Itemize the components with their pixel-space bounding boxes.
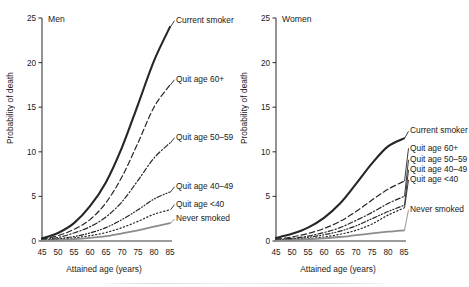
series-label: Quit age 50–59 bbox=[410, 154, 468, 164]
x-tick-label: 65 bbox=[335, 248, 345, 257]
y-tick-label: 0 bbox=[265, 237, 270, 246]
panel-title-women: Women bbox=[282, 14, 311, 24]
series-label: Quit age 60+ bbox=[176, 74, 224, 84]
series-line bbox=[42, 27, 170, 238]
y-tick-label: 5 bbox=[31, 192, 36, 201]
series-label: Current smoker bbox=[176, 15, 234, 25]
series-label-leader bbox=[171, 205, 175, 210]
y-axis-label: Probability of death bbox=[240, 72, 249, 144]
series-label: Current smoker bbox=[410, 125, 468, 135]
panel-men: Probability of death Men Attained age (y… bbox=[0, 0, 234, 287]
series-label: Quit age 60+ bbox=[410, 143, 458, 153]
series-line bbox=[42, 143, 170, 240]
y-tick-label: 15 bbox=[261, 103, 271, 112]
panel-title-men: Men bbox=[48, 14, 65, 24]
y-tick-label: 0 bbox=[31, 237, 36, 246]
series-line bbox=[276, 181, 404, 239]
series-label: Quit age <40 bbox=[176, 199, 225, 209]
x-tick-label: 80 bbox=[149, 248, 159, 257]
series-label-leader bbox=[171, 219, 175, 223]
plot-area-men: 0510152025455055606570758085Current smok… bbox=[0, 0, 234, 287]
figure-two-panel-line-chart: Probability of death Men Attained age (y… bbox=[0, 0, 469, 287]
x-axis-label: Attained age (years) bbox=[268, 264, 408, 274]
x-tick-label: 70 bbox=[351, 248, 361, 257]
series-line bbox=[276, 138, 404, 237]
scan-artifact-line bbox=[96, 283, 396, 284]
y-tick-label: 20 bbox=[261, 59, 271, 68]
x-tick-label: 50 bbox=[53, 248, 63, 257]
series-label: Never smoked bbox=[176, 213, 230, 223]
axis-lines bbox=[42, 18, 172, 241]
series-label: Quit age 40–49 bbox=[176, 181, 234, 191]
y-tick-label: 5 bbox=[265, 192, 270, 201]
x-tick-label: 55 bbox=[69, 248, 79, 257]
x-tick-label: 85 bbox=[165, 248, 175, 257]
x-tick-label: 75 bbox=[133, 248, 143, 257]
series-line bbox=[276, 205, 404, 240]
series-label: Quit age 40–49 bbox=[410, 164, 468, 174]
series-label-leader bbox=[405, 131, 409, 138]
x-tick-label: 80 bbox=[383, 248, 393, 257]
panel-women: Probability of death Women Attained age … bbox=[234, 0, 468, 287]
series-label: Never smoked bbox=[410, 204, 464, 214]
x-tick-label: 75 bbox=[367, 248, 377, 257]
y-axis-label: Probability of death bbox=[6, 72, 15, 144]
y-tick-label: 10 bbox=[27, 148, 37, 157]
y-tick-label: 15 bbox=[27, 103, 37, 112]
x-tick-label: 55 bbox=[303, 248, 313, 257]
y-tick-label: 20 bbox=[27, 59, 37, 68]
x-tick-label: 60 bbox=[319, 248, 329, 257]
series-label-leader bbox=[171, 187, 175, 192]
x-tick-label: 70 bbox=[117, 248, 127, 257]
series-label-leader bbox=[405, 210, 409, 230]
axis-lines bbox=[276, 18, 406, 241]
x-tick-label: 60 bbox=[85, 248, 95, 257]
x-tick-label: 85 bbox=[399, 248, 409, 257]
y-tick-label: 25 bbox=[261, 14, 271, 23]
series-label-leader bbox=[171, 21, 175, 27]
y-tick-label: 25 bbox=[27, 14, 37, 23]
y-tick-label: 10 bbox=[261, 148, 271, 157]
x-tick-label: 45 bbox=[37, 248, 47, 257]
plot-area-women: 0510152025455055606570758085Current smok… bbox=[234, 0, 468, 287]
series-label: Quit age <40 bbox=[410, 174, 459, 184]
series-label-leader bbox=[171, 80, 175, 85]
x-tick-label: 50 bbox=[287, 248, 297, 257]
series-label-leader bbox=[171, 138, 175, 143]
x-axis-label: Attained age (years) bbox=[34, 264, 174, 274]
series-label: Quit age 50–59 bbox=[176, 132, 234, 142]
x-tick-label: 45 bbox=[271, 248, 281, 257]
x-tick-label: 65 bbox=[101, 248, 111, 257]
